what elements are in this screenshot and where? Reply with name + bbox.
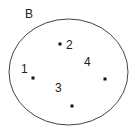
element-2-label: 2 [66, 38, 73, 52]
element-2-dot [59, 43, 62, 46]
element-4: 4 [84, 55, 107, 81]
element-2: 2 [59, 38, 74, 52]
element-4-dot [104, 78, 107, 81]
element-3-label: 3 [55, 81, 62, 95]
element-3-dot [71, 105, 74, 108]
element-4-label: 4 [84, 55, 91, 69]
element-1-dot [32, 77, 35, 80]
element-1: 1 [21, 62, 35, 80]
element-3: 3 [55, 81, 74, 108]
set-diagram: B 1 2 3 4 [0, 0, 135, 138]
element-1-label: 1 [21, 62, 28, 76]
set-b-label: B [25, 7, 33, 21]
